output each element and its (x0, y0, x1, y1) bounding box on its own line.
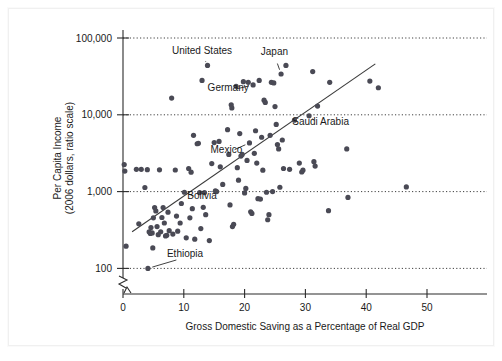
x-tick-label: 50 (421, 302, 433, 313)
data-point (268, 133, 273, 138)
data-point (218, 164, 223, 169)
data-point (280, 137, 285, 142)
x-tick-label: 20 (239, 302, 251, 313)
y-tick-label: 1,000 (87, 186, 112, 197)
annotation-label: Saudi Arabia (292, 116, 349, 127)
data-point (190, 206, 195, 211)
scatter-plot: United StatesJapanGermanySaudi ArabiaMex… (0, 0, 502, 361)
data-point (122, 168, 127, 173)
gridlines (123, 38, 487, 268)
data-point (201, 205, 206, 210)
data-point (136, 221, 141, 226)
data-point (259, 135, 264, 140)
data-point (148, 225, 153, 230)
annotation-label: Germany (208, 82, 249, 93)
data-point (123, 244, 128, 249)
data-point (242, 190, 247, 195)
data-point (175, 229, 180, 234)
x-axis-title: Gross Domestic Saving as a Percentage of… (186, 321, 425, 332)
data-point (225, 127, 230, 132)
data-point (276, 146, 281, 151)
data-point (265, 217, 270, 222)
y-tick-label: 10,000 (81, 109, 112, 120)
annotation-label: Mexico (211, 144, 243, 155)
data-point (287, 167, 292, 172)
data-point (237, 131, 242, 136)
data-point (169, 95, 174, 100)
data-point (207, 238, 212, 243)
data-point (179, 201, 184, 206)
data-point (191, 133, 196, 138)
data-point (281, 166, 286, 171)
trend-line (132, 64, 375, 232)
y-axis-tick-labels: 1001,00010,000100,000 (76, 33, 113, 274)
data-point (271, 80, 276, 85)
data-point (311, 159, 316, 164)
data-point (199, 78, 204, 83)
data-point (253, 128, 258, 133)
data-point (203, 212, 208, 217)
data-point (134, 167, 139, 172)
data-point (209, 161, 214, 166)
data-point (367, 78, 372, 83)
annotation-labels: United StatesJapanGermanySaudi ArabiaMex… (167, 45, 349, 259)
data-point (344, 146, 349, 151)
data-point (205, 63, 210, 68)
annotation-label: United States (172, 45, 232, 56)
data-point (258, 196, 263, 201)
data-point (404, 184, 409, 189)
data-point (198, 226, 203, 231)
data-point (192, 237, 197, 242)
data-point (174, 213, 179, 218)
data-point (251, 82, 256, 87)
data-point (170, 231, 175, 236)
data-point (249, 211, 254, 216)
data-point (162, 220, 167, 225)
annotation-leader (277, 64, 279, 70)
data-point (178, 220, 183, 225)
data-point (182, 190, 187, 195)
data-point (252, 151, 257, 156)
data-points (122, 63, 409, 271)
data-point (173, 167, 178, 172)
data-point (235, 165, 240, 170)
data-point (229, 105, 234, 110)
data-point (142, 185, 147, 190)
data-point (154, 224, 159, 229)
x-tick-label: 0 (120, 302, 126, 313)
data-point (231, 222, 236, 227)
data-point (161, 205, 166, 210)
data-point (196, 141, 201, 146)
data-point (244, 158, 249, 163)
data-point (297, 161, 302, 166)
x-tick-label: 10 (178, 302, 190, 313)
data-point (243, 186, 248, 191)
data-point (327, 80, 332, 85)
data-point (187, 215, 192, 220)
data-point (313, 163, 318, 168)
data-point (184, 235, 189, 240)
y-axis-title-line2: (2006 dollars, ratio scale) (64, 102, 75, 214)
x-tick-label: 40 (361, 302, 373, 313)
data-point (274, 122, 279, 127)
data-point (139, 167, 144, 172)
data-point (216, 139, 221, 144)
y-axis-title-line1: Per Capita Income (52, 116, 63, 199)
data-point (310, 69, 315, 74)
annotation-label: Ethiopia (167, 248, 204, 259)
data-point (272, 104, 277, 109)
annotation-leader (152, 260, 176, 267)
data-point (220, 182, 225, 187)
data-point (376, 85, 381, 90)
data-point (247, 140, 252, 145)
data-point (145, 266, 150, 271)
data-point (164, 233, 169, 238)
data-point (150, 230, 155, 235)
data-point (236, 178, 241, 183)
data-point (270, 189, 275, 194)
x-tick-label: 30 (300, 302, 312, 313)
data-point (315, 103, 320, 108)
y-axis-break-mark (119, 276, 127, 288)
annotation-label: Bolivia (187, 190, 217, 201)
figure-container: United StatesJapanGermanySaudi ArabiaMex… (0, 0, 502, 361)
